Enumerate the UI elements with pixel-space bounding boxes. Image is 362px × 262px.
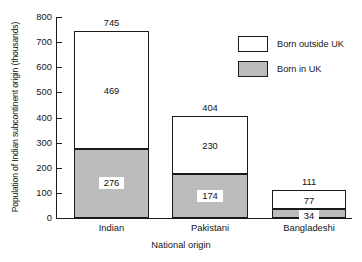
y-axis-tick xyxy=(57,118,62,119)
legend-swatch-born-in-uk xyxy=(238,61,268,77)
y-axis-tick xyxy=(57,17,62,18)
legend-swatch-born-outside-uk xyxy=(238,36,268,52)
legend-label-born-in-uk: Born in UK xyxy=(277,64,321,74)
bar-chart: Population of Indian subcontinent origin… xyxy=(0,0,362,262)
y-axis-tick-label: 300 xyxy=(24,137,52,148)
y-axis-tick xyxy=(57,193,62,194)
segment-born-outside-uk[interactable]: 230 xyxy=(172,116,248,174)
bar-total-label: 111 xyxy=(272,176,346,187)
segment-born-in-uk[interactable]: 174 xyxy=(172,174,248,218)
segment-value-born-in-uk: 34 xyxy=(273,210,345,222)
legend-item-born-outside-uk: Born outside UK xyxy=(238,36,344,52)
y-axis-tick-label: 500 xyxy=(24,86,52,97)
x-axis-tick-label: Pakistani xyxy=(155,222,265,233)
y-axis-tick xyxy=(57,143,62,144)
y-axis-tick xyxy=(57,42,62,43)
y-axis-tick-label: 800 xyxy=(24,11,52,22)
y-axis-tick xyxy=(57,67,62,68)
y-axis-tick xyxy=(57,92,62,93)
y-axis-tick xyxy=(57,168,62,169)
bar-total-label: 745 xyxy=(74,17,149,28)
x-axis-title: National origin xyxy=(0,240,362,250)
segment-born-outside-uk[interactable]: 469 xyxy=(74,31,149,149)
bar-bangladeshi[interactable]: 7734 xyxy=(272,190,346,218)
segment-born-outside-uk[interactable]: 77 xyxy=(272,190,346,209)
bar-indian[interactable]: 469276 xyxy=(74,31,149,218)
bar-pakistani[interactable]: 230174 xyxy=(172,116,248,218)
bar-total-label: 404 xyxy=(172,102,248,113)
segment-value-born-outside-uk: 230 xyxy=(173,140,247,151)
x-axis-tick-label: Bangladeshi xyxy=(254,222,362,233)
y-axis-tick xyxy=(57,218,62,219)
segment-born-in-uk[interactable]: 276 xyxy=(74,149,149,218)
segment-born-in-uk[interactable]: 34 xyxy=(272,209,346,218)
y-axis-tick-label: 400 xyxy=(24,112,52,123)
y-axis-title: Population of Indian subcontinent origin… xyxy=(10,10,20,224)
y-axis-tick-label: 700 xyxy=(24,36,52,47)
segment-value-born-outside-uk: 469 xyxy=(75,85,148,96)
legend: Born outside UK Born in UK xyxy=(238,36,344,86)
segment-value-born-in-uk: 276 xyxy=(75,177,148,189)
segment-value-born-in-uk: 174 xyxy=(173,190,247,202)
y-axis-tick-label: 200 xyxy=(24,162,52,173)
y-axis-tick-label: 100 xyxy=(24,187,52,198)
y-axis-tick-label: 600 xyxy=(24,61,52,72)
segment-value-born-outside-uk: 77 xyxy=(273,195,345,206)
y-axis-tick-label: 0 xyxy=(24,212,52,223)
legend-item-born-in-uk: Born in UK xyxy=(238,61,344,77)
x-axis-tick-label: Indian xyxy=(57,222,167,233)
legend-label-born-outside-uk: Born outside UK xyxy=(277,39,344,49)
